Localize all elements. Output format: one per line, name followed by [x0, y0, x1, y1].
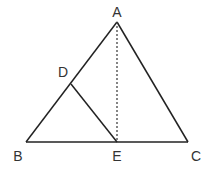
segment-AC	[117, 22, 188, 142]
geometry-diagram: A B C D E	[0, 0, 214, 177]
point-label-A: A	[112, 5, 121, 19]
triangle-figure	[0, 0, 214, 177]
point-label-E: E	[112, 149, 121, 163]
segment-DE	[71, 84, 117, 142]
point-label-C: C	[191, 149, 201, 163]
point-label-D: D	[58, 65, 68, 79]
point-label-B: B	[13, 149, 22, 163]
